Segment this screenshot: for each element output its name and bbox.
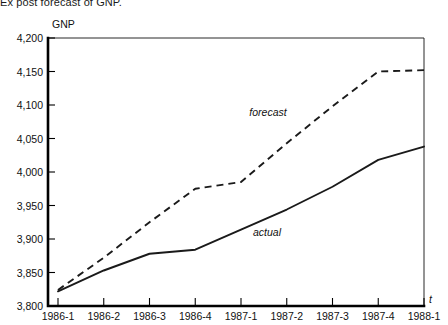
x-tick-label: 1986-1 bbox=[42, 310, 75, 322]
y-tick-label: 4,100 bbox=[17, 99, 43, 111]
x-axis-labels: 1986-1 1986-2 1986-3 1986-4 1987-1 1987-… bbox=[42, 310, 441, 322]
y-tick-label: 3,900 bbox=[17, 233, 43, 245]
y-axis-labels: 4,200 4,150 4,100 4,050 4,000 3,950 3,90… bbox=[17, 32, 43, 312]
chart-page: Ex post forecast of GNP. bbox=[0, 0, 448, 325]
annotation-forecast: forecast bbox=[249, 106, 287, 118]
y-tick-label: 3,850 bbox=[17, 267, 43, 279]
x-tick-label: 1986-2 bbox=[87, 310, 120, 322]
series-line-forecast bbox=[58, 70, 424, 290]
y-tick-label: 4,050 bbox=[17, 133, 43, 145]
x-tick-label: 1987-1 bbox=[225, 310, 258, 322]
x-axis-title: t bbox=[429, 293, 433, 305]
chart-svg: 4,200 4,150 4,100 4,050 4,000 3,950 3,90… bbox=[0, 0, 448, 325]
series-line-actual bbox=[58, 147, 424, 292]
y-axis-title: GNP bbox=[52, 18, 75, 30]
y-tick-label: 4,200 bbox=[17, 32, 43, 44]
x-tick-label: 1987-4 bbox=[362, 310, 395, 322]
y-tick-label: 4,000 bbox=[17, 166, 43, 178]
y-tick-label: 3,950 bbox=[17, 200, 43, 212]
y-tick-label: 3,800 bbox=[17, 300, 43, 312]
y-tick-label: 4,150 bbox=[17, 66, 43, 78]
x-tick-label: 1986-4 bbox=[179, 310, 212, 322]
annotation-actual: actual bbox=[253, 226, 282, 238]
x-tick-label: 1988-1 bbox=[408, 310, 441, 322]
x-tick-label: 1986-3 bbox=[133, 310, 166, 322]
chart-axes bbox=[48, 38, 424, 306]
x-tick-label: 1987-3 bbox=[316, 310, 349, 322]
x-tick-label: 1987-2 bbox=[270, 310, 303, 322]
chart-canvas: 4,200 4,150 4,100 4,050 4,000 3,950 3,90… bbox=[0, 0, 448, 325]
chart-frame bbox=[48, 38, 424, 306]
